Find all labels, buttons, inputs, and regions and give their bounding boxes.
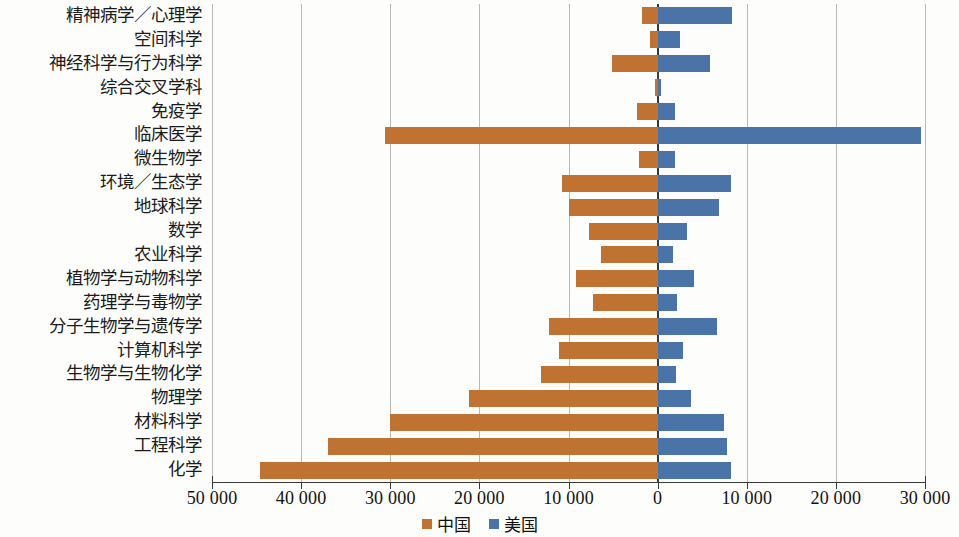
bar-china[interactable] — [569, 199, 658, 216]
bar-usa[interactable] — [658, 175, 731, 192]
legend-label-usa: 美国 — [504, 511, 538, 536]
axis-end-cap — [212, 476, 213, 483]
bar-usa[interactable] — [658, 223, 687, 240]
bar-row — [212, 318, 925, 335]
category-label: 工程科学 — [134, 437, 202, 455]
bar-usa[interactable] — [658, 294, 678, 311]
bar-usa[interactable] — [658, 414, 724, 431]
bar-china[interactable] — [469, 390, 658, 407]
legend-swatch-china-icon — [422, 519, 432, 529]
bar-usa[interactable] — [658, 390, 691, 407]
bar-row — [212, 79, 925, 96]
bar-china[interactable] — [601, 246, 658, 263]
category-label: 精神病学／心理学 — [66, 7, 202, 25]
bar-row — [212, 55, 925, 72]
bar-usa[interactable] — [658, 246, 673, 263]
bar-usa[interactable] — [658, 270, 695, 287]
bar-usa[interactable] — [658, 7, 732, 24]
bar-china[interactable] — [593, 294, 657, 311]
category-label: 免疫学 — [151, 103, 202, 121]
gridline — [212, 4, 213, 482]
gridline — [836, 4, 837, 482]
bar-usa[interactable] — [658, 79, 662, 96]
zero-axis-line — [657, 4, 659, 482]
legend-item-china[interactable]: 中国 — [422, 511, 471, 536]
bar-usa[interactable] — [658, 342, 683, 359]
bar-usa[interactable] — [658, 366, 677, 383]
category-label: 植物学与动物科学 — [66, 270, 202, 288]
gridline — [569, 4, 570, 482]
bar-usa[interactable] — [658, 55, 711, 72]
bar-china[interactable] — [559, 342, 658, 359]
bar-china[interactable] — [328, 438, 658, 455]
bar-row — [212, 199, 925, 216]
x-axis-tick-label: 40 000 — [276, 488, 327, 509]
bar-row — [212, 223, 925, 240]
bar-china[interactable] — [639, 151, 658, 168]
category-label: 神经科学与行为科学 — [49, 55, 202, 73]
category-label: 空间科学 — [134, 31, 202, 49]
category-label: 微生物学 — [134, 151, 202, 169]
bar-china[interactable] — [642, 7, 657, 24]
gridline — [479, 4, 480, 482]
bar-usa[interactable] — [658, 103, 675, 120]
category-label: 综合交叉学科 — [100, 79, 202, 97]
category-label: 农业科学 — [134, 246, 202, 264]
gridline — [390, 4, 391, 482]
category-label: 生物学与生物化学 — [66, 366, 202, 384]
bar-row — [212, 7, 925, 24]
bar-china[interactable] — [390, 414, 657, 431]
gridline — [301, 4, 302, 482]
bar-china[interactable] — [541, 366, 658, 383]
category-label: 药理学与毒物学 — [83, 294, 202, 312]
x-axis-tick-label: 10 000 — [721, 488, 772, 509]
bar-china[interactable] — [562, 175, 657, 192]
bar-china[interactable] — [637, 103, 657, 120]
bar-china[interactable] — [576, 270, 658, 287]
bar-china[interactable] — [612, 55, 657, 72]
bar-row — [212, 246, 925, 263]
category-label: 环境／生态学 — [100, 175, 202, 193]
bar-usa[interactable] — [658, 438, 728, 455]
axis-end-cap — [925, 476, 926, 483]
category-label: 分子生物学与遗传学 — [49, 318, 202, 336]
bar-china[interactable] — [650, 31, 658, 48]
bar-usa[interactable] — [658, 151, 675, 168]
bar-china[interactable] — [385, 127, 658, 144]
x-axis-tick-label: 30 000 — [365, 488, 416, 509]
bar-china[interactable] — [260, 462, 657, 479]
bar-usa[interactable] — [658, 127, 921, 144]
x-axis-tick-label: 10 000 — [543, 488, 594, 509]
bar-china[interactable] — [549, 318, 658, 335]
bar-row — [212, 31, 925, 48]
bar-row — [212, 294, 925, 311]
x-axis-tick-label: 20 000 — [811, 488, 862, 509]
legend-label-china: 中国 — [437, 511, 471, 536]
bar-usa[interactable] — [658, 462, 731, 479]
category-label: 临床医学 — [134, 127, 202, 145]
category-label: 物理学 — [151, 390, 202, 408]
bar-usa[interactable] — [658, 318, 718, 335]
bar-china[interactable] — [589, 223, 658, 240]
legend-item-usa[interactable]: 美国 — [489, 511, 538, 536]
bar-row — [212, 366, 925, 383]
bar-row — [212, 342, 925, 359]
x-axis-tick-label: 30 000 — [900, 488, 951, 509]
category-label: 数学 — [168, 222, 202, 240]
bar-row — [212, 175, 925, 192]
category-label: 化学 — [168, 461, 202, 479]
gridline — [925, 4, 926, 482]
bar-row — [212, 390, 925, 407]
bar-row — [212, 103, 925, 120]
bar-usa[interactable] — [658, 31, 680, 48]
x-axis-tick-label: 50 000 — [187, 488, 238, 509]
x-axis-tick-label: 0 — [653, 488, 662, 509]
category-label: 材料科学 — [134, 414, 202, 432]
gridline — [747, 4, 748, 482]
category-label: 计算机科学 — [117, 342, 202, 360]
bar-row — [212, 127, 925, 144]
bar-usa[interactable] — [658, 199, 719, 216]
x-axis-tick-label: 20 000 — [454, 488, 505, 509]
bar-row — [212, 438, 925, 455]
diverging-bar-chart: 精神病学／心理学空间科学神经科学与行为科学综合交叉学科免疫学临床医学微生物学环境… — [0, 0, 959, 537]
